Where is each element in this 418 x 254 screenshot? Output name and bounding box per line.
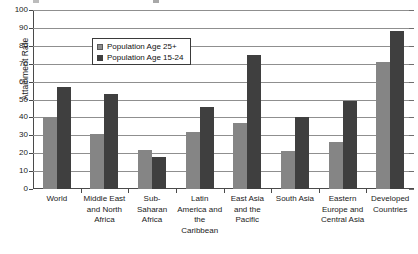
x-axis-label-line: Eastern — [319, 194, 367, 205]
x-axis-label-line: Africa — [128, 215, 176, 226]
x-axis-separator — [81, 189, 82, 193]
legend-item-population-age-25-plus: Population Age 25+ — [97, 41, 177, 52]
chart-legend: Population Age 25+ Population Age 15-24 — [92, 38, 191, 65]
x-axis-separator — [176, 189, 177, 193]
y-tick-label-90: 90 — [4, 24, 28, 32]
x-axis-label: East Asiaand thePacific — [224, 194, 272, 226]
remnant-swatch-two — [153, 0, 159, 3]
legend-label-series-0: Population Age 25+ — [107, 43, 177, 51]
bar — [90, 134, 104, 189]
bar-group — [128, 10, 176, 189]
bar-chart: 0102030405060708090100 Attainment Rate W… — [0, 0, 418, 254]
y-tick-label-30: 30 — [4, 131, 28, 139]
x-axis-label-line: America and — [176, 205, 224, 216]
bar-group — [366, 10, 414, 189]
x-axis-label-line: Caribbean — [176, 226, 224, 237]
x-axis-separator — [224, 189, 225, 193]
x-axis-separator — [319, 189, 320, 193]
x-axis-label-line: Africa — [81, 215, 129, 226]
bar — [200, 107, 214, 189]
y-axis-title: Attainment Rate — [20, 38, 30, 100]
x-axis-label-line: and the — [224, 205, 272, 216]
bar — [390, 31, 404, 189]
bar-group — [224, 10, 272, 189]
x-axis-label-line: World — [33, 194, 81, 205]
bar-group — [33, 10, 81, 189]
bar — [247, 55, 261, 189]
x-axis-label: DevelopedCountries — [366, 194, 414, 215]
bar — [343, 101, 357, 189]
bar — [43, 117, 57, 189]
x-axis-label-line: South Asia — [271, 194, 319, 205]
cropped-legend-remnant — [33, 0, 283, 5]
y-tick-label-10: 10 — [4, 167, 28, 175]
x-axis-label-line: Sub- — [128, 194, 176, 205]
x-axis-label: South Asia — [271, 194, 319, 205]
bar-group — [176, 10, 224, 189]
bar — [281, 151, 295, 189]
plot-area — [33, 10, 414, 189]
remnant-swatch-one — [33, 0, 39, 3]
y-tick-label-20: 20 — [4, 149, 28, 157]
x-axis-label-line: Central Asia — [319, 215, 367, 226]
bar-group — [81, 10, 129, 189]
bar-group — [271, 10, 319, 189]
x-axis-label-line: Countries — [366, 205, 414, 216]
x-axis-label-line: Developed — [366, 194, 414, 205]
bar-groups — [33, 10, 414, 189]
bar — [376, 62, 390, 189]
bar — [138, 150, 152, 189]
x-axis-separator — [271, 189, 272, 193]
bar — [329, 142, 343, 189]
x-axis-label-line: Saharan — [128, 205, 176, 216]
bar — [152, 157, 166, 189]
bar — [57, 87, 71, 189]
bar-group — [319, 10, 367, 189]
x-axis-separator — [128, 189, 129, 193]
x-axis-label-line: Europe and — [319, 205, 367, 216]
bar — [295, 117, 309, 189]
x-axis-label: Sub-SaharanAfrica — [128, 194, 176, 226]
bar — [186, 132, 200, 189]
x-axis-label-line: and North — [81, 205, 129, 216]
x-axis-separator — [366, 189, 367, 193]
y-tick-right-0 — [409, 189, 414, 190]
x-axis-label-line: East Asia — [224, 194, 272, 205]
y-tick-label-40: 40 — [4, 113, 28, 121]
x-axis-label-line: Latin — [176, 194, 224, 205]
y-tick-label-100: 100 — [4, 6, 28, 14]
y-tick-label-0: 0 — [4, 185, 28, 193]
x-axis-label: World — [33, 194, 81, 205]
bar — [104, 94, 118, 189]
legend-swatch-icon-series-0 — [97, 44, 103, 50]
bar — [233, 123, 247, 189]
y-tick-0 — [29, 189, 33, 190]
legend-item-population-age-15-24: Population Age 15-24 — [97, 52, 184, 63]
x-axis-label-line: Pacific — [224, 215, 272, 226]
x-axis-label: Middle Eastand NorthAfrica — [81, 194, 129, 226]
legend-swatch-icon-series-1 — [97, 55, 103, 61]
x-axis-label: LatinAmerica andtheCaribbean — [176, 194, 224, 236]
x-axis-label-line: Middle East — [81, 194, 129, 205]
x-axis-label-line: the — [176, 215, 224, 226]
x-axis-category-labels: WorldMiddle Eastand NorthAfricaSub-Sahar… — [33, 194, 414, 252]
legend-label-series-1: Population Age 15-24 — [107, 54, 184, 62]
x-axis-label: EasternEurope andCentral Asia — [319, 194, 367, 226]
